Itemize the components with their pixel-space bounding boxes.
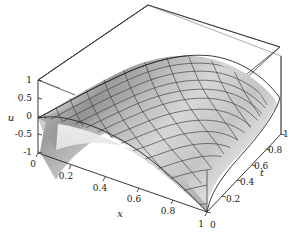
surface-body [38, 56, 277, 212]
t-tick-label: 0.2 [226, 194, 240, 204]
x-tick-label: 0.8 [161, 206, 176, 216]
x-tick-label: 0.4 [93, 183, 108, 193]
x-tick-label: 1 [198, 219, 204, 229]
u-axis-tick-labels: 1 0.5 0 -0.5 -1 [15, 75, 33, 157]
u-tick-label: -1 [23, 147, 32, 157]
u-tick-label: 0.5 [18, 93, 33, 103]
x-axis-title: x [117, 208, 123, 219]
t-tick-label: 0 [210, 220, 216, 230]
x-tick-label: 0.6 [127, 194, 142, 204]
t-tick-label: 0.8 [268, 145, 283, 155]
u-axis-ticks [38, 80, 42, 153]
surface-plot-figure: 1 0.5 0 -0.5 -1 0 0.2 0.4 0.6 0.8 1 0 0.… [0, 0, 292, 240]
u-tick-label: -0.5 [15, 129, 33, 139]
u-axis-title: u [8, 112, 14, 123]
u-tick-label: 0 [26, 111, 32, 121]
t-tick-label: 0.4 [240, 177, 255, 187]
t-tick-label: 1 [283, 129, 289, 139]
plot-canvas: 1 0.5 0 -0.5 -1 0 0.2 0.4 0.6 0.8 1 0 0.… [0, 0, 292, 240]
x-tick-label: 0.2 [59, 171, 73, 181]
x-tick-label: 0 [30, 159, 36, 169]
u-tick-label: 1 [26, 75, 32, 85]
